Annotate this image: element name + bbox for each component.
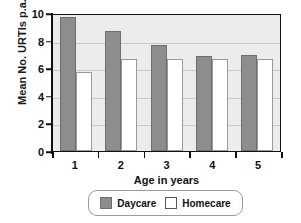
- y-tick-label: 2: [38, 118, 44, 130]
- bar-daycare: [241, 55, 257, 151]
- legend-item-homecare: Homecare: [165, 197, 230, 209]
- y-tick-label: 6: [38, 63, 44, 75]
- bar-daycare: [60, 17, 76, 151]
- x-tick-mark: [235, 152, 237, 158]
- bar-daycare: [196, 56, 212, 151]
- plot-area: [52, 14, 281, 152]
- bar-group: [235, 15, 280, 151]
- x-axis-title: Age in years: [52, 174, 281, 186]
- legend-swatch-homecare-icon: [165, 197, 177, 209]
- legend-label-daycare: Daycare: [117, 198, 156, 209]
- x-tick-label: 2: [118, 159, 124, 171]
- bar-group: [144, 15, 189, 151]
- x-tick-label: 4: [209, 159, 215, 171]
- legend-item-daycare: Daycare: [100, 197, 156, 209]
- chart-legend: Daycare Homecare: [88, 190, 243, 216]
- bar-group: [53, 15, 98, 151]
- legend-label-homecare: Homecare: [182, 198, 230, 209]
- x-tick-mark: [144, 152, 146, 158]
- bar-homecare: [257, 59, 273, 151]
- bar-group: [98, 15, 143, 151]
- x-tick-label: 5: [255, 159, 261, 171]
- x-tick-mark: [281, 152, 283, 158]
- x-tick-mark: [98, 152, 100, 158]
- bar-homecare: [212, 59, 228, 151]
- y-tick-label: 10: [32, 8, 44, 20]
- y-tick-label: 4: [38, 91, 44, 103]
- bar-daycare: [105, 31, 121, 151]
- x-tick-mark: [52, 152, 54, 158]
- bar-homecare: [167, 59, 183, 151]
- x-tick-mark: [189, 152, 191, 158]
- y-axis-ticks: 0246810: [0, 0, 52, 166]
- bar-chart: Mean No. URTIs p.a. 0246810 12345 Age in…: [0, 0, 301, 223]
- bar-homecare: [121, 59, 137, 151]
- bar-groups: [53, 15, 280, 151]
- bar-daycare: [151, 45, 167, 151]
- y-tick-label: 8: [38, 36, 44, 48]
- legend-swatch-daycare-icon: [100, 197, 112, 209]
- x-tick-label: 1: [72, 159, 78, 171]
- x-tick-label: 3: [163, 159, 169, 171]
- y-tick-label: 0: [38, 146, 44, 158]
- bar-group: [189, 15, 234, 151]
- bar-homecare: [76, 72, 92, 151]
